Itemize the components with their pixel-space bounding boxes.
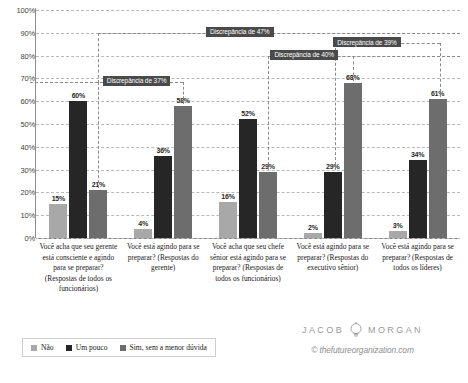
gridline bbox=[36, 238, 460, 239]
bar bbox=[344, 83, 362, 238]
bar bbox=[429, 99, 447, 238]
bar bbox=[409, 160, 427, 238]
callout-connector bbox=[98, 33, 99, 83]
x-axis-category-labels: Você acha que seu gerente está conscient… bbox=[36, 242, 460, 320]
y-axis-tick-label: 20% bbox=[3, 188, 35, 197]
category-label: Você acha que seu chefe sênior está agin… bbox=[208, 242, 289, 284]
callout-connector bbox=[268, 56, 269, 170]
discrepancy-label: Discrepância de 40% bbox=[270, 50, 338, 60]
category-label: Você está agindo para se preparar? (Resp… bbox=[377, 242, 458, 274]
gridline bbox=[36, 10, 460, 11]
callout-connector bbox=[440, 43, 441, 97]
bar bbox=[219, 202, 237, 238]
y-axis-tick-label: 50% bbox=[3, 120, 35, 129]
chart-legend: NãoUm poucoSim, sem a menor dúvida bbox=[22, 338, 216, 357]
y-axis-tick-label: 60% bbox=[3, 97, 35, 106]
discrepancy-label: Discrepância de 39% bbox=[333, 37, 401, 47]
y-axis-tick-label: 10% bbox=[3, 211, 35, 220]
legend-item[interactable]: Sim, sem a menor dúvida bbox=[120, 343, 207, 352]
bar bbox=[304, 233, 322, 238]
plot-area: 15%60%21%4%36%58%16%52%29%2%29%68%3%34%6… bbox=[36, 10, 460, 238]
callout-connector bbox=[98, 33, 460, 34]
bar-value-label: 52% bbox=[228, 110, 268, 117]
y-axis-ticks: 100%90%80%70%60%50%40%30%20%10%0% bbox=[0, 10, 35, 238]
legend-item[interactable]: Um pouco bbox=[66, 343, 108, 352]
y-axis-tick-label: 40% bbox=[3, 142, 35, 151]
bar bbox=[259, 172, 277, 238]
legend-swatch bbox=[31, 345, 37, 351]
category-label: Você está agindo para se preparar? (Resp… bbox=[292, 242, 373, 274]
discrepancy-label: Discrepância de 37% bbox=[103, 76, 171, 86]
gridline bbox=[36, 78, 460, 79]
y-axis-tick-label: 80% bbox=[3, 51, 35, 60]
y-axis-tick-label: 90% bbox=[3, 28, 35, 37]
category-label: Você acha que seu gerente está conscient… bbox=[38, 242, 119, 295]
callout-connector bbox=[98, 82, 99, 188]
legend-swatch bbox=[120, 345, 126, 351]
legend-item[interactable]: Não bbox=[31, 343, 54, 352]
bar bbox=[324, 172, 342, 238]
brand-url: © thefutureorganization.com bbox=[270, 345, 455, 355]
category-label: Você está agindo para se preparar? (Resp… bbox=[123, 242, 204, 274]
bar bbox=[69, 101, 87, 238]
discrepancy-label: Discrepância de 47% bbox=[206, 27, 274, 37]
bar bbox=[89, 190, 107, 238]
legend-label: Sim, sem a menor dúvida bbox=[130, 343, 207, 352]
brand-name: JACOB MORGAN bbox=[270, 322, 455, 338]
bar bbox=[389, 231, 407, 238]
bar-value-label: 61% bbox=[418, 90, 458, 97]
callout-connector bbox=[335, 43, 336, 170]
callout-connector bbox=[353, 56, 354, 81]
bar bbox=[134, 229, 152, 238]
bar bbox=[239, 119, 257, 238]
callout-connector bbox=[183, 82, 184, 104]
legend-swatch bbox=[66, 345, 72, 351]
y-axis-tick-label: 0% bbox=[3, 234, 35, 243]
legend-label: Um pouco bbox=[76, 343, 108, 352]
lightbulb-icon bbox=[349, 322, 363, 338]
brand-first-name: JACOB bbox=[302, 325, 344, 335]
legend-label: Não bbox=[41, 343, 54, 352]
branding-block: JACOB MORGAN © thefutureorganization.com bbox=[270, 322, 455, 355]
bar-value-label: 60% bbox=[58, 92, 98, 99]
gridline bbox=[36, 101, 460, 102]
bar bbox=[49, 204, 67, 238]
chart-page: 100%90%80%70%60%50%40%30%20%10%0% 15%60%… bbox=[0, 0, 468, 383]
y-axis-tick-label: 100% bbox=[3, 6, 35, 15]
y-axis-tick-label: 30% bbox=[3, 165, 35, 174]
brand-last-name: MORGAN bbox=[368, 325, 423, 335]
bar bbox=[174, 106, 192, 238]
bar bbox=[154, 156, 172, 238]
